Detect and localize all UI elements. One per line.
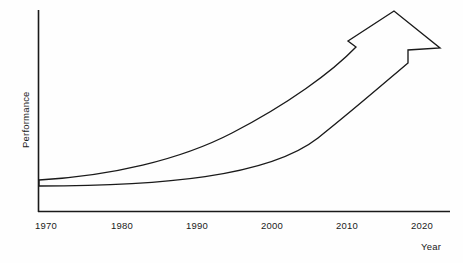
x-axis-title: Year bbox=[421, 241, 441, 252]
x-tick-label-2020: 2020 bbox=[411, 220, 433, 231]
performance-over-time-chart: 1970 1980 1990 2000 2010 2020 Year Perfo… bbox=[0, 0, 463, 263]
growth-arrow bbox=[39, 11, 440, 186]
x-tick-label-1990: 1990 bbox=[186, 220, 208, 231]
x-tick-label-1980: 1980 bbox=[111, 220, 133, 231]
x-tick-label-2010: 2010 bbox=[336, 220, 358, 231]
x-tick-label-2000: 2000 bbox=[261, 220, 283, 231]
x-tick-label-1970: 1970 bbox=[35, 220, 57, 231]
y-axis-title: Performance bbox=[20, 91, 31, 148]
chart-canvas bbox=[0, 0, 463, 263]
